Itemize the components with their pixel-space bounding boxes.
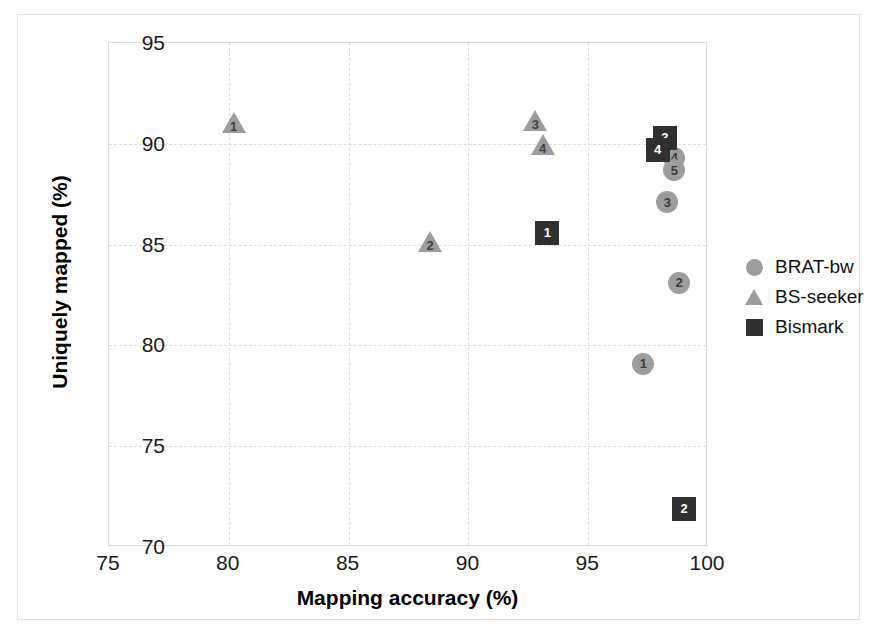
data-point-label: 2 <box>426 239 433 252</box>
data-point-circle: 1 <box>632 353 654 375</box>
legend-circle-icon <box>744 257 764 277</box>
y-axis-tick-label: 85 <box>105 234 165 255</box>
y-axis-label: Uniquely mapped (%) <box>48 72 72 492</box>
data-point-label: 3 <box>532 118 539 131</box>
data-point-circle: 5 <box>663 159 685 181</box>
gridline-vertical <box>588 43 589 545</box>
data-point-square: 4 <box>646 138 670 162</box>
legend-item-brat-bw: BRAT-bw <box>744 252 874 282</box>
data-point-label: 4 <box>539 142 546 155</box>
data-point-square: 2 <box>672 497 696 521</box>
gridline-horizontal <box>109 245 706 246</box>
legend-triangle-icon <box>744 287 764 307</box>
legend-item-bs-seeker: BS-seeker <box>744 282 874 312</box>
gridline-vertical <box>349 43 350 545</box>
legend-square-icon <box>744 317 764 337</box>
x-axis-tick-label: 85 <box>318 552 378 573</box>
data-point-label: 1 <box>230 120 237 133</box>
x-axis-tick-label: 75 <box>78 552 138 573</box>
y-axis-tick-label: 95 <box>105 32 165 53</box>
gridline-horizontal <box>109 144 706 145</box>
data-point-triangle: 3 <box>523 110 547 131</box>
legend-item-bismark: Bismark <box>744 312 874 342</box>
y-axis-tick-label: 80 <box>105 334 165 355</box>
x-axis-tick-label: 100 <box>677 552 737 573</box>
gridline-vertical <box>468 43 469 545</box>
legend-label: Bismark <box>775 316 844 338</box>
legend-label: BRAT-bw <box>775 256 854 278</box>
x-axis-tick-label: 80 <box>198 552 258 573</box>
x-axis-tick-label: 95 <box>557 552 617 573</box>
plot-area: 1234512341234 <box>108 42 707 546</box>
gridline-horizontal <box>109 345 706 346</box>
data-point-triangle: 1 <box>222 112 246 133</box>
x-axis-label: Mapping accuracy (%) <box>108 586 707 610</box>
data-point-circle: 2 <box>668 272 690 294</box>
data-point-triangle: 4 <box>531 134 555 155</box>
legend-label: BS-seeker <box>775 286 864 308</box>
circle-glyph <box>746 259 763 276</box>
legend: BRAT-bwBS-seekerBismark <box>744 252 874 342</box>
gridline-horizontal <box>109 446 706 447</box>
y-axis-tick-label: 90 <box>105 133 165 154</box>
y-axis-tick-label: 75 <box>105 435 165 456</box>
x-axis-tick-label: 90 <box>437 552 497 573</box>
data-point-triangle: 2 <box>418 231 442 252</box>
scatter-plot-figure: 1234512341234 7075808590957580859095100 … <box>0 0 883 643</box>
data-point-square: 1 <box>535 221 559 245</box>
triangle-glyph <box>745 289 763 305</box>
data-point-circle: 3 <box>656 191 678 213</box>
square-glyph <box>746 319 763 336</box>
